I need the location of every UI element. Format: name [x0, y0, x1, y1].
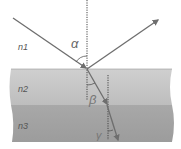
beta-label: β [88, 92, 97, 107]
alpha-arc [76, 56, 87, 62]
reflected-ray [87, 20, 158, 69]
label-n3: n3 [18, 121, 28, 131]
refraction-diagram: n1 n2 n3 α β γ [0, 0, 181, 149]
alpha-label: α [71, 36, 79, 51]
medium-n3-layer [11, 105, 174, 142]
label-n1: n1 [18, 42, 28, 52]
label-n2: n2 [18, 84, 28, 94]
